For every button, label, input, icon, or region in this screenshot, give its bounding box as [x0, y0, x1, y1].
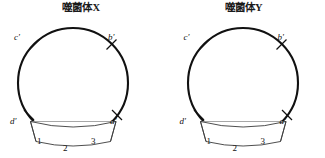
phage-genome-figure: 噬菌体X c' b' d' a' 1 2 3 [0, 0, 325, 158]
phage-panel-y: 噬菌体Y c' b' d' a' 1 2 3 [163, 0, 325, 158]
segment-label-3: 3 [261, 136, 266, 146]
phage-panel-x: 噬菌体X c' b' d' a' 1 2 3 [0, 0, 163, 158]
site-label-b: b' [108, 32, 114, 42]
segment-label-2: 2 [233, 143, 238, 153]
site-tick-c [30, 40, 40, 50]
site-label-b: b' [278, 32, 284, 42]
site-label-a: a' [110, 116, 116, 126]
site-tick-c [199, 40, 209, 50]
segment-label-3: 3 [91, 136, 96, 146]
site-label-c: c' [14, 32, 20, 42]
site-tick-d [194, 110, 204, 120]
segment-label-2: 2 [63, 143, 68, 153]
site-tick-d [24, 110, 34, 120]
site-label-c: c' [184, 32, 190, 42]
segment-label-1: 1 [37, 136, 42, 146]
genome-circle-diagram [163, 0, 325, 158]
segment-label-1: 1 [207, 136, 212, 146]
site-label-d: d' [180, 116, 186, 126]
site-label-d: d' [10, 116, 16, 126]
site-label-a: a' [280, 116, 286, 126]
genome-circle-diagram [0, 0, 163, 158]
